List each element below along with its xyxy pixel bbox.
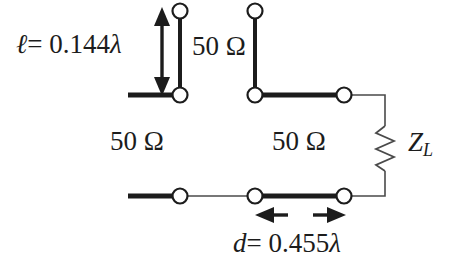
junction-stub-upper <box>173 88 188 103</box>
load-impedance-symbol: Z <box>408 127 423 157</box>
junction-load-lower <box>337 189 352 204</box>
line-impedance-left-label: 50 Ω <box>110 128 164 155</box>
figure-canvas: ℓ= 0.144λ 50 Ω 50 Ω 50 Ω ZL d= 0.455λ <box>0 0 461 261</box>
terminal-stub-open-end <box>173 4 188 19</box>
stub-distance-equals: = <box>247 228 262 258</box>
junction-riser-lower <box>248 189 263 204</box>
distance-arrowhead-right <box>327 207 346 223</box>
stub-impedance-label: 50 Ω <box>192 33 246 60</box>
junction-stub-lower <box>173 189 188 204</box>
stub-length-arrowhead-up <box>154 7 170 26</box>
stub-length-unit: λ <box>110 29 122 59</box>
load-impedance-subscript: L <box>423 140 433 160</box>
stub-distance-label: d= 0.455λ <box>233 230 341 257</box>
junction-load-upper <box>337 88 352 103</box>
stub-length-equals: = <box>27 29 42 59</box>
stub-distance-unit: λ <box>329 228 341 258</box>
junction-riser-upper <box>248 88 263 103</box>
stub-distance-symbol: d <box>233 228 247 258</box>
line-impedance-right-label: 50 Ω <box>272 128 326 155</box>
terminal-riser-open-end <box>248 4 263 19</box>
stub-length-value: 0.144 <box>49 29 110 59</box>
stub-length-symbol: ℓ <box>16 29 27 59</box>
load-impedance-label: ZL <box>408 129 433 159</box>
stub-distance-value: 0.455 <box>268 228 329 258</box>
stub-length-label: ℓ= 0.144λ <box>16 31 122 58</box>
load-resistor-zigzag <box>376 126 394 171</box>
distance-arrowhead-left <box>255 207 274 223</box>
